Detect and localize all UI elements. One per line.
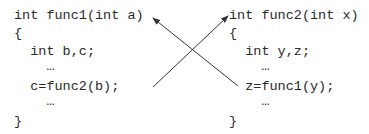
call-arrows — [0, 0, 369, 134]
arrow-func2-calls-func1 — [153, 18, 238, 86]
